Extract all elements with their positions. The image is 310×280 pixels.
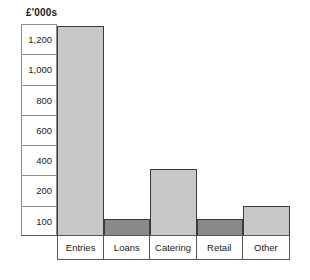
y-axis-tick: 600: [22, 116, 56, 146]
y-axis-tick: 1,200: [22, 25, 56, 55]
category-label-other: Other: [243, 236, 289, 259]
plot-area: [57, 24, 290, 236]
category-label-entries: Entries: [58, 236, 104, 259]
y-axis-tick: 1,000: [22, 55, 56, 85]
bar-loans: [104, 219, 151, 236]
y-axis-tick: 400: [22, 146, 56, 176]
y-axis: 1,2001,000800600400200100: [21, 24, 57, 236]
bar-slot: [104, 24, 151, 236]
bar-slot: [150, 24, 197, 236]
category-label-loans: Loans: [104, 236, 150, 259]
y-axis-tick: 800: [22, 86, 56, 116]
category-label-catering: Catering: [150, 236, 196, 259]
bar-slot: [243, 24, 290, 236]
y-axis-unit-title: £'000s: [26, 7, 57, 18]
bar-entries: [57, 26, 104, 236]
category-label-retail: Retail: [197, 236, 243, 259]
category-label-row: EntriesLoansCateringRetailOther: [57, 236, 290, 260]
bar-slot: [57, 24, 104, 236]
bar-retail: [197, 219, 244, 236]
bar-other: [243, 206, 290, 236]
y-axis-tick: 100: [22, 207, 56, 237]
bars-container: [57, 24, 290, 236]
bar-catering: [150, 169, 197, 236]
y-axis-tick: 200: [22, 176, 56, 206]
bar-slot: [197, 24, 244, 236]
bar-chart: £'000s 1,2001,000800600400200100 Entries…: [0, 0, 310, 280]
axis-baseline: [21, 235, 290, 236]
